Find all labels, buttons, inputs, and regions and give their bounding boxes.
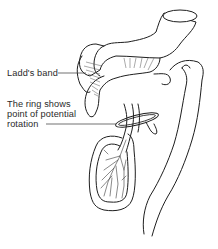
ring-rotation-label: The ring shows point of potential rotati… <box>7 99 76 129</box>
colon <box>143 60 203 236</box>
ring-label-line-2: point of potential <box>7 109 76 119</box>
rotation-ring <box>114 110 159 130</box>
ring-label-line-3: rotation <box>7 119 76 129</box>
ladds-band-text: Ladd's band <box>7 68 58 78</box>
ladds-band-label: Ladd's band <box>7 68 58 78</box>
mesenteric-root <box>118 104 157 152</box>
ring-label-line-1: The ring shows <box>7 99 76 109</box>
stomach-duodenum <box>79 10 197 76</box>
